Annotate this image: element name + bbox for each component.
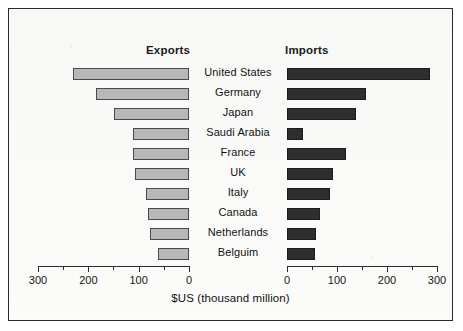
axis-tick-minor [63, 266, 64, 270]
import-bar [287, 188, 330, 200]
axis-title: $US (thousand million) [9, 292, 452, 304]
export-bar [96, 88, 189, 100]
axis-tick-label: 100 [119, 274, 159, 286]
axis-tick-minor [113, 266, 114, 270]
axis-tick-major [337, 266, 338, 272]
axis-tick-minor [164, 266, 165, 270]
category-label: UK [193, 166, 283, 178]
import-bar [287, 88, 366, 100]
category-label: Netherlands [193, 226, 283, 238]
import-bar [287, 248, 315, 260]
axis-tick-major [437, 266, 438, 272]
right-axis-imports: 0100200300 [287, 266, 437, 292]
axis-tick-major [88, 266, 89, 272]
axis-tick-label: 200 [367, 274, 407, 286]
category-label: United States [193, 66, 283, 78]
category-label: Saudi Arabia [193, 126, 283, 138]
axis-tick-major [287, 266, 288, 272]
export-bar [135, 168, 189, 180]
axis-tick-minor [362, 266, 363, 270]
bar-row: UK [9, 164, 452, 184]
import-bar [287, 148, 346, 160]
import-bar [287, 108, 356, 120]
category-label: Japan [193, 106, 283, 118]
category-label: Canada [193, 206, 283, 218]
bar-row: Belguim [9, 244, 452, 264]
bar-row: Japan [9, 104, 452, 124]
export-bar [73, 68, 189, 80]
export-bar [114, 108, 189, 120]
export-bar [133, 128, 189, 140]
bar-row: Canada [9, 204, 452, 224]
export-bar [158, 248, 189, 260]
export-bar [150, 228, 189, 240]
export-bar [133, 148, 189, 160]
bar-row: France [9, 144, 452, 164]
axis-tick-label: 0 [267, 274, 307, 286]
axis-tick-major [189, 266, 190, 272]
import-bar [287, 228, 316, 240]
chart-frame: Exports Imports United StatesGermanyJapa… [8, 8, 453, 321]
left-axis-exports: 3002001000 [38, 266, 189, 292]
bar-row: Netherlands [9, 224, 452, 244]
axis-tick-major [38, 266, 39, 272]
category-label: France [193, 146, 283, 158]
bar-row: Saudi Arabia [9, 124, 452, 144]
export-bar [146, 188, 189, 200]
axis-tick-label: 0 [169, 274, 209, 286]
bar-row: Italy [9, 184, 452, 204]
bar-row: Germany [9, 84, 452, 104]
axis-tick-major [139, 266, 140, 272]
axis-tick-minor [312, 266, 313, 270]
import-bar [287, 68, 430, 80]
axis-tick-label: 200 [68, 274, 108, 286]
import-bar [287, 168, 333, 180]
axis-tick-label: 100 [317, 274, 357, 286]
category-label: Belguim [193, 246, 283, 258]
axis-tick-label: 300 [417, 274, 453, 286]
axis-tick-label: 300 [18, 274, 58, 286]
import-bar [287, 208, 320, 220]
import-bar [287, 128, 303, 140]
export-bar [148, 208, 189, 220]
bar-row: United States [9, 64, 452, 84]
category-label: Germany [193, 86, 283, 98]
category-label: Italy [193, 186, 283, 198]
axis-tick-major [387, 266, 388, 272]
axis-tick-minor [412, 266, 413, 270]
